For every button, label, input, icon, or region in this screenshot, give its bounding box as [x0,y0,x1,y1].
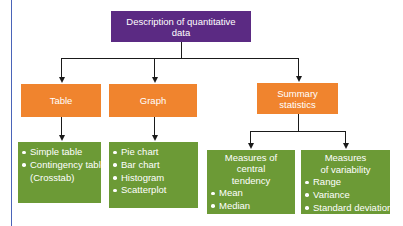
list-item: Standard deviation [304,202,387,215]
summary-label-line1: Summary [277,88,318,99]
central-tendency-list: Measures of central tendency Mean Median… [207,150,295,214]
list-item: Mean [210,187,292,200]
root-connector-vertical [181,42,182,58]
variability-header-line2: of variability [304,164,387,175]
table-to-leaf-connector [61,117,62,136]
list-item: Contingency table [21,159,98,172]
graph-leaf-arrow-icon [152,135,158,141]
left-margin-rule [11,0,12,226]
list-item: Mode [210,213,292,226]
root-connector-horizontal [61,58,299,59]
central-tendency-arrow-icon [248,143,254,149]
variability-arrow-icon [343,143,349,149]
variability-list: Measures of variability Range Variance S… [301,150,390,214]
root-label-line1: Description of quantitative [126,16,235,27]
list-item: Simple table [21,146,98,159]
summary-connector [298,58,299,77]
graph-connector [154,58,155,78]
graph-label: Graph [140,95,166,106]
summary-split-horizontal [250,131,346,132]
table-label: Table [50,95,73,106]
list-item: Histogram [112,172,195,185]
central-tendency-header-line2: tendency [210,175,292,186]
list-item: Scatterplot [112,184,195,197]
list-item: Range [304,176,387,189]
graph-node: Graph [109,84,197,117]
root-node-description-of-quantitative-data: Description of quantitative data [111,11,251,42]
list-item: Bar chart [112,159,195,172]
variability-header-line1: Measures [304,152,387,163]
table-node: Table [21,84,101,117]
graph-to-leaf-connector [154,117,155,136]
graph-types-list: Pie chart Bar chart Histogram Scatterplo… [109,142,198,208]
root-label-line2: data [172,27,191,38]
graph-arrow-icon [152,77,158,83]
list-item: Pie chart [112,146,195,159]
central-tendency-header-line1: Measures of central [210,152,292,174]
list-item: Median [210,200,292,213]
table-arrow-icon [59,77,65,83]
list-item: Variance [304,189,387,202]
summary-arrow-icon [296,76,302,82]
summary-statistics-node: Summary statistics [257,83,338,114]
table-types-list: Simple table Contingency table (Crosstab… [18,142,101,203]
summary-down-connector [298,114,299,131]
table-leaf-arrow-icon [59,135,65,141]
summary-label-line2: statistics [279,99,315,110]
list-item-continuation: (Crosstab) [21,172,98,185]
table-connector [61,58,62,78]
